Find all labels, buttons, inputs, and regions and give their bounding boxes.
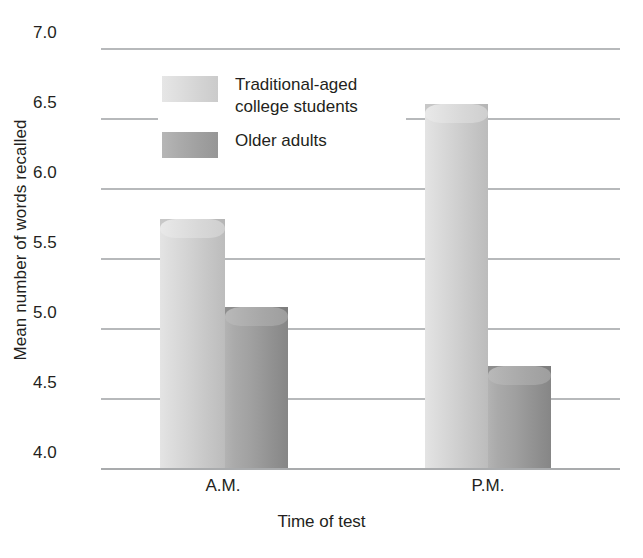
x-tick-label-am: A.M. [143,476,303,496]
y-tick-label-4.5: 4.5 [33,374,89,391]
x-axis-title: Time of test [0,512,643,532]
y-axis-title: Mean number of words recalled [8,0,34,480]
chart-container: Mean number of words recalled 7.0 6.5 6.… [0,0,643,558]
gridline-4.0-baseline [101,468,620,470]
y-tick-label-5.0: 5.0 [33,304,89,321]
legend-item-older-adults: Older adults [162,130,400,158]
bar-am-older-adults [225,307,288,468]
bar-cap [488,366,551,385]
bar-cap [225,307,288,326]
bar-body [225,316,288,468]
bar-body [425,113,488,468]
legend-swatch-light-icon [162,76,218,102]
plot-area: 7.0 6.5 6.0 5.5 5.0 4.5 4.0 [101,48,620,468]
bar-am-traditional-aged [160,219,225,468]
y-tick-label-7.0: 7.0 [33,24,89,41]
bar-body [488,375,551,468]
legend-swatch-dark-icon [162,132,218,158]
legend-label-older-adults: Older adults [235,130,327,152]
bar-cap [160,219,225,238]
gridline-7.0 [101,48,620,50]
legend-item-traditional-aged: Traditional-aged college students [162,74,400,118]
y-tick-label-6.0: 6.0 [33,164,89,181]
bar-cap [425,104,488,123]
legend-label-traditional-aged: Traditional-aged college students [235,74,358,118]
x-tick-label-pm: P.M. [408,476,568,496]
bar-pm-older-adults [488,366,551,468]
bar-pm-traditional-aged [425,104,488,468]
y-tick-label-5.5: 5.5 [33,234,89,251]
y-tick-label-4.0: 4.0 [33,444,89,461]
legend: Traditional-aged college students Older … [158,70,406,164]
bar-body [160,228,225,468]
gridline-6.0 [101,188,620,190]
y-tick-label-6.5: 6.5 [33,94,89,111]
